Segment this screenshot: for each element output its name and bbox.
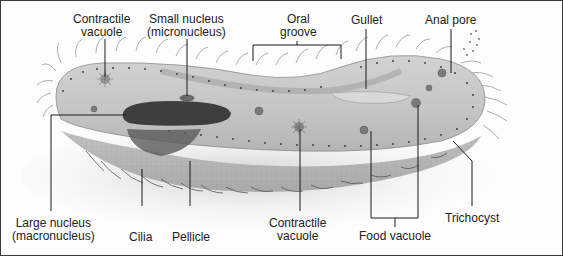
label-contractile-vacuole-top: Contractile vacuole xyxy=(73,13,130,39)
label-contractile-vacuole-bottom: Contractile vacuole xyxy=(269,217,326,243)
label-oral-groove: Oral groove xyxy=(280,13,317,39)
label-cilia: Cilia xyxy=(129,231,152,244)
contractile-vacuole-posterior xyxy=(291,119,307,135)
label-pellicle: Pellicle xyxy=(172,231,210,244)
label-gullet: Gullet xyxy=(351,14,382,27)
macronucleus xyxy=(123,101,231,126)
label-trichocyst: Trichocyst xyxy=(445,212,499,225)
label-food-vacuole: Food vacuole xyxy=(359,230,431,243)
anal-pore-particles xyxy=(463,30,480,56)
label-anal-pore: Anal pore xyxy=(425,14,476,27)
label-small-nucleus: Small nucleus (micronucleus) xyxy=(147,13,226,39)
label-large-nucleus: Large nucleus (macronucleus) xyxy=(12,217,95,243)
leader-oral-groove xyxy=(253,41,341,61)
diagram-frame: Contractile vacuole Small nucleus (micro… xyxy=(0,0,563,256)
